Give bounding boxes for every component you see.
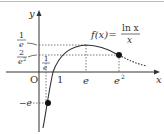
- function-curve-extension: [119, 55, 147, 66]
- y-label-inv-e: 1 e: [17, 31, 26, 49]
- point-e-squared: [116, 52, 122, 58]
- x-label-e: e: [83, 75, 89, 86]
- svg-text:2: 2: [121, 73, 125, 80]
- svg-text:2: 2: [23, 56, 26, 62]
- origin-label: O: [30, 74, 38, 85]
- x-axis-label: x: [156, 74, 162, 85]
- y-axis-label: y: [28, 8, 35, 19]
- svg-text:f(x)=: f(x)=: [90, 29, 117, 40]
- y-axis-arrow-icon: [37, 10, 42, 16]
- svg-text:1: 1: [44, 55, 48, 63]
- guide-lines: [30, 45, 119, 103]
- svg-text:ln x: ln x: [122, 23, 139, 33]
- function-graph: y x O 1 e 2 e 2 −e 1 e 1 e e 2 f(x)= ln …: [0, 0, 164, 134]
- y-label-two-over-e-squared: 2 e 2: [17, 48, 27, 66]
- svg-text:x: x: [127, 35, 132, 45]
- svg-text:e: e: [114, 75, 120, 86]
- function-curve: [43, 45, 119, 128]
- svg-text:1: 1: [19, 31, 24, 40]
- svg-text:e: e: [43, 64, 47, 72]
- x-label-e-squared: e 2: [114, 73, 125, 86]
- x-label-inv-e: 1 e: [42, 55, 50, 72]
- pointer-arrow-icon: [28, 55, 37, 57]
- x-label-one: 1: [57, 74, 63, 85]
- pointer-arrow-icon: [27, 43, 37, 45]
- function-label: f(x)= ln x x: [90, 23, 140, 45]
- y-label-neg-e: −e: [19, 98, 32, 108]
- point-min: [45, 100, 51, 106]
